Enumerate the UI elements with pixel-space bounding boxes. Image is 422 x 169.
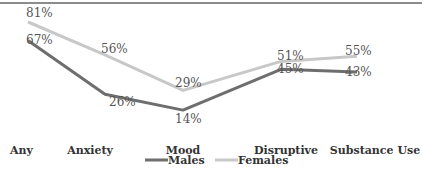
x-tick-label: Any xyxy=(9,144,34,157)
data-label-females: 51% xyxy=(277,49,304,63)
data-label-males: 26% xyxy=(109,95,136,109)
data-label-males: 14% xyxy=(175,112,202,126)
data-label-females: 29% xyxy=(175,76,202,90)
data-label-males: 45% xyxy=(277,62,304,76)
x-tick-label: Anxiety xyxy=(66,144,113,157)
series-line-males xyxy=(28,40,357,110)
data-label-females: 56% xyxy=(101,42,128,56)
data-label-females: 81% xyxy=(26,6,53,20)
data-label-males: 67% xyxy=(26,33,53,47)
data-label-males: 43% xyxy=(345,65,372,79)
legend-label-females: Females xyxy=(238,154,288,167)
legend-label-males: Males xyxy=(168,154,205,167)
data-label-females: 55% xyxy=(345,44,372,58)
line-chart: 67%26%14%45%43%81%56%29%51%55%AnyAnxiety… xyxy=(0,0,422,169)
x-tick-label: Substance Use xyxy=(330,144,420,157)
